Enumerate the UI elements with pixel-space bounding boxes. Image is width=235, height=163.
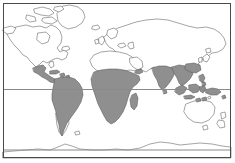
japan-north-outline — [206, 48, 211, 53]
tasmania-outline — [203, 125, 208, 130]
world-map-svg — [0, 0, 235, 163]
ireland-outline — [95, 39, 99, 44]
philippines-south-shaded — [202, 82, 206, 86]
lesser-sunda-shaded — [202, 97, 207, 101]
korea-outline — [199, 57, 202, 62]
moluccas-shaded — [196, 98, 201, 102]
south-georgia-outline — [75, 131, 80, 135]
solomon-islands-shaded — [222, 95, 226, 99]
caribbean-hispaniola-shaded — [60, 73, 65, 77]
world-distribution-map-figure — [0, 0, 235, 163]
